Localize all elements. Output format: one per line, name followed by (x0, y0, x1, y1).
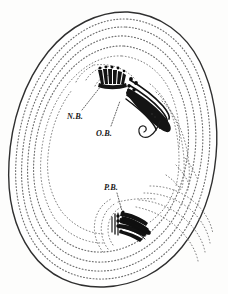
label-pb: P.B. (104, 183, 118, 192)
label-ob: O.B. (96, 129, 112, 138)
specimen-diagram: .growth { fill: none; stroke: #6e6e6e; s… (0, 0, 228, 294)
label-nb: N.B. (66, 112, 83, 121)
figure-container: .growth { fill: none; stroke: #6e6e6e; s… (0, 0, 228, 294)
